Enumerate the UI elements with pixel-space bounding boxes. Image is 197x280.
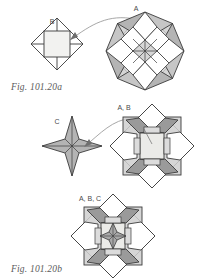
figure-panel-b: C (0, 98, 197, 186)
module-b-inner-square (44, 31, 70, 57)
figure-panel-a: B (0, 0, 197, 98)
module-c-creases (42, 116, 102, 176)
assembly-abc-shape (71, 194, 155, 278)
figure-caption-a: Fig. 101.20a (11, 82, 62, 92)
tab-e (164, 138, 170, 154)
tab-n (144, 127, 160, 133)
label-assembly-ab: A, B (117, 104, 131, 111)
label-module-c: C (54, 118, 59, 125)
assembly-abc-point-w (71, 222, 98, 250)
assembly-abc-point-e (128, 222, 155, 250)
module-b-shape (31, 18, 83, 70)
assembly-ab-point-e (167, 132, 194, 160)
figure-c-drawing: A, B, C (0, 186, 197, 280)
label-module-b: B (50, 18, 55, 25)
assembly-a-shape (106, 12, 184, 90)
tab-s (144, 159, 160, 165)
diagram-page: B (0, 0, 197, 280)
figure-b-drawing: C (0, 98, 197, 186)
assembly-ab-shape (110, 104, 194, 188)
figure-panel-c: A, B, C Fig. 101.20c (0, 186, 197, 280)
module-c-shape (42, 116, 102, 176)
assembly-ab-point-w (110, 132, 137, 160)
tab-w (134, 138, 140, 154)
label-assembly-a: A (134, 5, 139, 12)
assembly-ab-inner-square (140, 133, 164, 159)
assembly-a-creases (133, 39, 157, 63)
label-assembly-abc: A, B, C (79, 195, 101, 202)
